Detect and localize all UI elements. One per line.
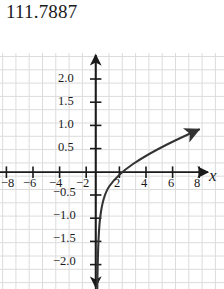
y-tick-label: −1.0 xyxy=(53,208,76,223)
figure-root: 111.7887 xyxy=(0,0,224,289)
x-tick-label: 2 xyxy=(114,176,120,191)
x-tick-label: −8 xyxy=(1,176,14,191)
graph-plot-area: y xyxy=(0,53,224,289)
x-tick-label: −6 xyxy=(23,176,36,191)
page-title: 111.7887 xyxy=(6,1,77,23)
y-tick-label: 0.5 xyxy=(58,140,74,155)
log-curve xyxy=(97,130,199,289)
y-tick-label: 1.5 xyxy=(58,94,74,109)
y-tick-label: 2.0 xyxy=(58,71,74,86)
y-tick-label: 1.0 xyxy=(58,117,74,132)
x-tick-label: 8 xyxy=(194,176,200,191)
y-tick-label: −2.0 xyxy=(53,254,76,269)
x-axis-label: x xyxy=(209,166,217,186)
x-tick-label: −2 xyxy=(76,176,89,191)
y-tick-label: −0.5 xyxy=(53,185,76,200)
y-tick-label: −1.5 xyxy=(53,231,76,246)
x-tick-label: 6 xyxy=(168,176,174,191)
x-tick-label: 4 xyxy=(141,176,147,191)
graph-svg xyxy=(0,53,224,289)
